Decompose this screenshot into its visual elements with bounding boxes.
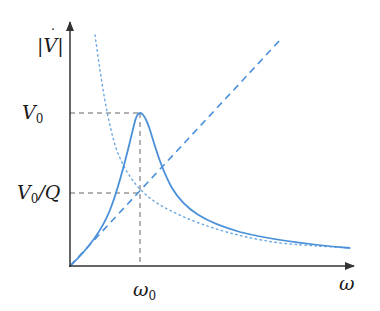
low-frequency-asymptote <box>70 39 281 266</box>
omega0-label: ω0 <box>133 280 156 302</box>
v0q-label: V0/Q <box>17 183 60 205</box>
v0-label: V0 <box>22 103 43 125</box>
x-axis-label: ω <box>339 274 355 293</box>
resonance-curve <box>70 113 350 266</box>
resonance-diagram: |V˙| V0 V0/Q ω0 ω <box>0 0 380 311</box>
y-axis-label: |V˙| <box>37 36 64 55</box>
high-frequency-asymptote <box>95 35 350 248</box>
